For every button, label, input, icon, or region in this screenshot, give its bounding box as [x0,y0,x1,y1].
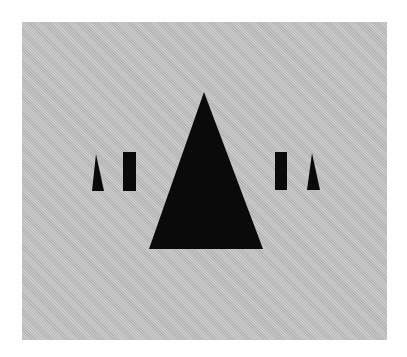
left-rectangle [123,152,136,191]
central-large-triangle [149,92,263,249]
left-small-triangle [92,154,104,191]
figure-canvas [0,0,407,357]
right-rectangle [275,152,287,190]
right-small-triangle [307,153,320,190]
